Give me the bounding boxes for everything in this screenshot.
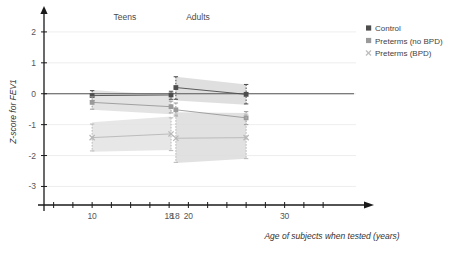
x-axis-arrow bbox=[364, 201, 374, 208]
legend-label-0: Control bbox=[375, 24, 401, 33]
series-0-panel-1-marker-1 bbox=[244, 92, 249, 97]
series-1-panel-0-marker-0 bbox=[90, 100, 95, 105]
y-axis-arrow bbox=[40, 6, 47, 14]
y-tick-label-5: -3 bbox=[28, 181, 36, 191]
x-tick-label-2: 18 bbox=[170, 211, 180, 221]
series-0-panel-0-trend bbox=[92, 95, 171, 96]
x-tick-label-4: 30 bbox=[280, 211, 290, 221]
legend-marker-0 bbox=[366, 25, 371, 30]
y-tick-label-3: -1 bbox=[28, 120, 36, 130]
series-1-panel-0-marker-1 bbox=[169, 104, 174, 109]
y-tick-label-2: 0 bbox=[31, 89, 36, 99]
series-1-panel-1-marker-0 bbox=[173, 107, 178, 112]
x-axis-title: Age of subjects when tested (years) bbox=[263, 231, 399, 241]
fev1-zscore-chart: 210-1-2-31018182030TeensAdultsZ-score fo… bbox=[0, 0, 461, 255]
legend-label-1: Preterms (no BPD) bbox=[375, 37, 443, 46]
x-tick-label-0: 10 bbox=[87, 211, 97, 221]
y-tick-label-1: 1 bbox=[31, 58, 36, 68]
series-0-panel-0-marker-1 bbox=[169, 93, 174, 98]
group-label-adults: Adults bbox=[186, 12, 210, 22]
chart-canvas: 210-1-2-31018182030TeensAdultsZ-score fo… bbox=[0, 0, 461, 255]
legend-label-2: Preterms (BPD) bbox=[375, 49, 432, 58]
legend-marker-1 bbox=[366, 38, 371, 43]
x-tick-label-3: 20 bbox=[184, 211, 194, 221]
y-tick-label-4: -2 bbox=[28, 151, 36, 161]
y-axis-title: Z-score for FEV1 bbox=[8, 79, 18, 145]
y-tick-label-0: 2 bbox=[31, 27, 36, 37]
group-label-teens: Teens bbox=[114, 12, 137, 22]
series-2-panel-1-trend bbox=[176, 138, 246, 139]
series-0-panel-1-marker-0 bbox=[173, 85, 178, 90]
